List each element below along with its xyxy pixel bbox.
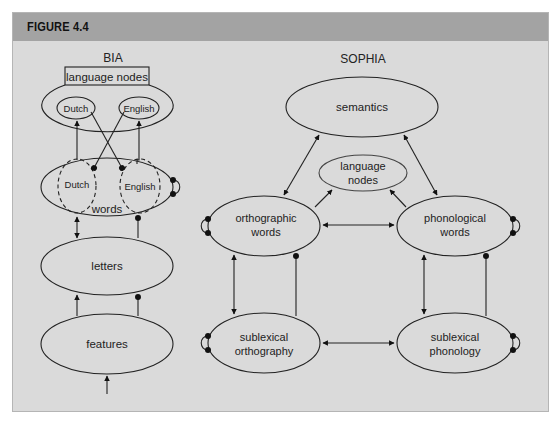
- bia-dutch-words-label: Dutch: [65, 179, 90, 190]
- sophia-semantics-phonological-arrow: [404, 135, 437, 195]
- sophia-semantics-orthographic-arrow: [284, 135, 319, 195]
- sophia-sublexical-phonology-self-loop: [510, 333, 520, 353]
- sophia-semantics-label: semantics: [336, 101, 388, 113]
- sophia-phonological-words-label-line2: words: [439, 226, 470, 238]
- bia-dutch-language-label: Dutch: [64, 103, 89, 114]
- sophia-phonological-words-label-line1: phonological: [424, 212, 486, 224]
- bia-english-to-english-arrow: [137, 121, 139, 164]
- bia-words-self-loop-dot: [170, 191, 176, 197]
- sophia-diagram: SOPHIA semantics language nodes orthogra…: [201, 52, 520, 373]
- sophia-sublexical-phonology-label-line1: sublexical: [431, 331, 479, 343]
- bia-english-language-label: English: [123, 103, 154, 114]
- sophia-language-nodes-label-line1: language: [340, 160, 385, 172]
- sophia-phonological-words-self-loop: [510, 216, 520, 236]
- bia-words-label: words: [91, 203, 123, 215]
- sophia-orthographic-language-arrow: [315, 190, 332, 207]
- sophia-orthographic-words-self-loop: [201, 216, 211, 236]
- sophia-title: SOPHIA: [340, 52, 385, 66]
- bia-english-words-label: English: [124, 181, 155, 192]
- bia-features-label: features: [86, 338, 128, 350]
- bia-words-self-loop-dot: [170, 177, 176, 183]
- sophia-sublexical-phonology-label-line2: phonology: [430, 345, 481, 357]
- sophia-phonological-language-arrow: [390, 190, 406, 207]
- bia-dutch-inhibits-english-line: [91, 112, 122, 168]
- sophia-sublexical-phonology-node: [397, 313, 513, 373]
- sophia-sublexical-orthography-node: [208, 313, 320, 373]
- sophia-sublexical-orthography-label-line1: sublexical: [240, 331, 288, 343]
- bia-english-inhibits-dutch-line: [94, 112, 124, 168]
- sophia-sublexical-orthography-self-loop: [201, 333, 211, 353]
- sophia-orthographic-words-label-line2: words: [250, 226, 281, 238]
- bia-language-nodes-label: language nodes: [66, 71, 148, 83]
- bia-letters-label: letters: [91, 260, 123, 272]
- sophia-sublexical-orthography-label-line2: orthography: [235, 345, 294, 357]
- sophia-language-nodes-label-line2: nodes: [348, 174, 378, 186]
- diagram-canvas: BIA language nodes Dutch English Dutch E…: [0, 0, 559, 422]
- sophia-orthographic-words-label-line1: orthographic: [235, 212, 297, 224]
- bia-diagram: BIA language nodes Dutch English Dutch E…: [41, 51, 180, 394]
- bia-title: BIA: [103, 51, 122, 65]
